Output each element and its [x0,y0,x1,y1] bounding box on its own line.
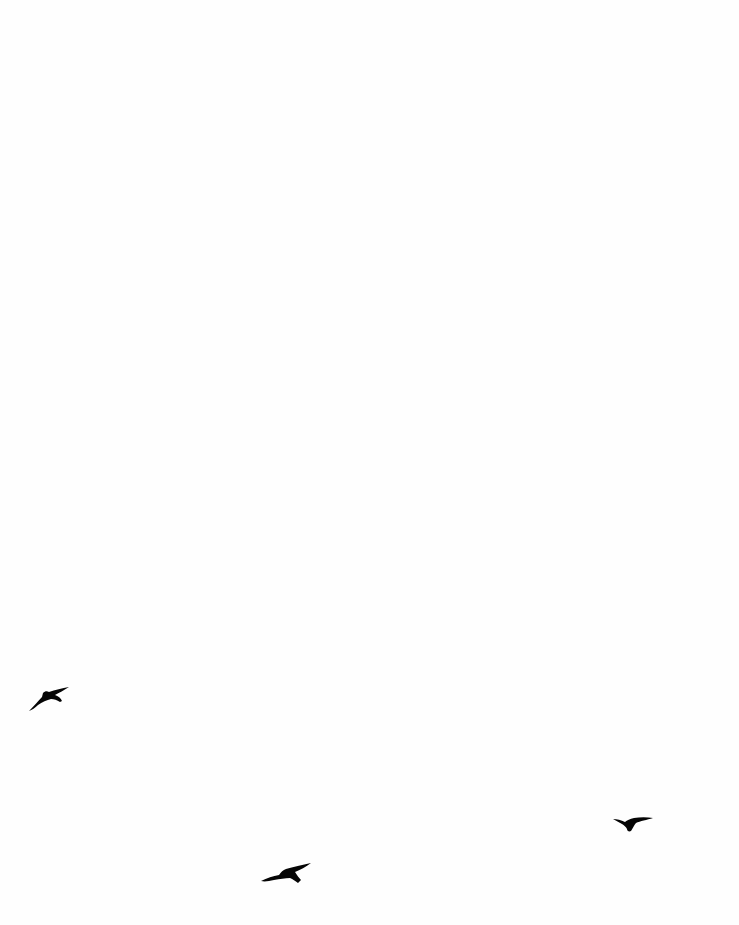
sky-background [0,0,739,925]
bird-silhouette-bottom [260,862,312,886]
bird-silhouette-right [612,814,654,834]
bird-icon [612,814,654,834]
bird-silhouette-left [28,686,70,713]
bird-icon [260,862,312,886]
bird-icon [28,686,70,713]
